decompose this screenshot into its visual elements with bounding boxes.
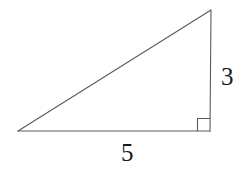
side-length-label-horizontal: 5: [121, 140, 134, 165]
triangle-group: [18, 10, 211, 131]
right-angle-marker-group: [198, 119, 211, 132]
vertical-leg-line: [210, 10, 211, 131]
hypotenuse-line: [18, 10, 211, 131]
side-length-label-vertical: 3: [221, 64, 234, 89]
right-angle-marker-icon: [198, 119, 211, 132]
figure-canvas: 3 5: [0, 0, 241, 171]
